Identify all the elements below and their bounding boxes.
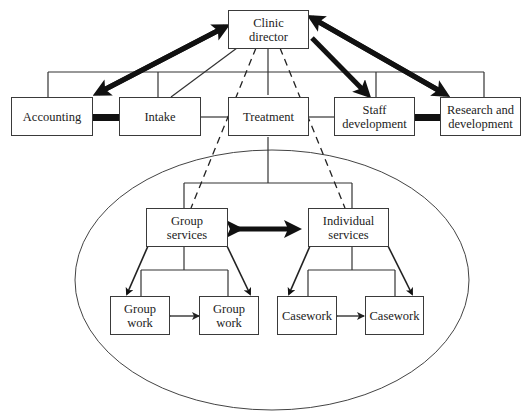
node-accounting[interactable]: Accounting xyxy=(11,97,93,136)
node-label: Casework xyxy=(282,309,332,323)
node-treatment[interactable]: Treatment xyxy=(228,97,309,136)
node-label: Staff development xyxy=(342,103,407,131)
node-label: Clinic director xyxy=(249,16,288,44)
node-group-work-2[interactable]: Group work xyxy=(199,296,259,335)
node-group-services[interactable]: Group services xyxy=(146,208,228,247)
node-label: Individual services xyxy=(323,214,374,242)
node-label: Casework xyxy=(370,309,420,323)
node-label: Group work xyxy=(124,302,156,330)
node-label: Treatment xyxy=(243,110,294,124)
node-research-development[interactable]: Research and development xyxy=(440,97,521,136)
node-label: Group work xyxy=(213,302,245,330)
treatment-ellipse xyxy=(75,150,469,410)
node-label: Group services xyxy=(167,214,207,242)
node-clinic-director[interactable]: Clinic director xyxy=(228,10,309,49)
node-staff-development[interactable]: Staff development xyxy=(334,97,415,136)
node-label: Intake xyxy=(144,110,175,124)
node-individual-services[interactable]: Individual services xyxy=(308,208,389,247)
node-casework-1[interactable]: Casework xyxy=(277,296,337,335)
node-intake[interactable]: Intake xyxy=(119,97,201,136)
diagram-lines xyxy=(0,0,529,419)
node-casework-2[interactable]: Casework xyxy=(365,296,424,335)
node-group-work-1[interactable]: Group work xyxy=(110,296,170,335)
node-label: Accounting xyxy=(23,110,81,124)
node-label: Research and development xyxy=(447,103,514,131)
